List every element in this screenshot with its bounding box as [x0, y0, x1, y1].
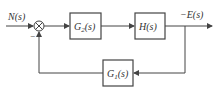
block-diagram: N(s) − G2(s) H(s) −E(s) G1(s): [0, 0, 219, 92]
h-label: H(s): [138, 21, 157, 33]
summing-junction: [34, 21, 44, 31]
input-label: N(s): [7, 11, 26, 23]
minus-sign: −: [30, 31, 35, 41]
output-label: −E(s): [180, 9, 204, 21]
